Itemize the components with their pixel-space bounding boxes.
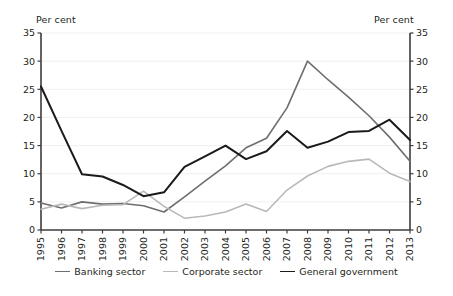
series-lines xyxy=(41,61,410,218)
y-tick-label-right: 5 xyxy=(416,196,422,207)
legend-swatch-icon xyxy=(55,271,70,272)
y-tick-label-right: 20 xyxy=(416,112,428,123)
legend-swatch-icon xyxy=(163,271,178,272)
x-tick-label: 2009 xyxy=(322,237,333,261)
y-tick-label-left: 20 xyxy=(23,112,35,123)
y-tick-label-left: 25 xyxy=(23,84,35,95)
chart-container: Per cent Per cent 05101520253035 0510152… xyxy=(0,0,453,296)
legend-label: General government xyxy=(299,266,397,277)
chart-legend: Banking sectorCorporate sectorGeneral go… xyxy=(0,266,453,277)
x-tick-label: 2003 xyxy=(199,237,210,261)
x-axis: 1995199619971998199920002001200220032004… xyxy=(35,230,415,261)
y-axis-right: 05101520253035 xyxy=(410,27,428,235)
y-tick-label-right: 25 xyxy=(416,84,428,95)
y-tick-label-right: 30 xyxy=(416,56,428,67)
y-tick-label-left: 30 xyxy=(23,56,35,67)
x-tick-label: 2008 xyxy=(302,237,313,261)
x-tick-label: 2013 xyxy=(404,237,415,261)
x-tick-label: 1997 xyxy=(76,237,87,261)
x-tick-label: 1996 xyxy=(56,237,67,261)
x-tick-label: 2001 xyxy=(158,237,169,261)
legend-item-general-government[interactable]: General government xyxy=(280,266,397,277)
y-tick-label-right: 15 xyxy=(416,140,428,151)
x-tick-label: 2012 xyxy=(384,237,395,261)
y-tick-label-left: 35 xyxy=(23,27,35,38)
x-tick-label: 1995 xyxy=(35,237,46,261)
legend-item-banking-sector[interactable]: Banking sector xyxy=(55,266,145,277)
y-tick-label-left: 10 xyxy=(23,168,35,179)
x-tick-label: 2011 xyxy=(363,237,374,261)
series-line-banking-sector xyxy=(41,61,410,212)
y-tick-label-right: 0 xyxy=(416,224,422,235)
line-chart-plot: 05101520253035 05101520253035 1995199619… xyxy=(0,0,453,296)
legend-swatch-icon xyxy=(280,271,295,272)
x-tick-label: 2005 xyxy=(240,237,251,261)
x-tick-label: 2004 xyxy=(220,237,231,261)
legend-label: Corporate sector xyxy=(182,266,262,277)
series-line-corporate-sector xyxy=(41,159,410,218)
y-tick-label-left: 5 xyxy=(29,196,35,207)
y-tick-label-left: 15 xyxy=(23,140,35,151)
x-tick-label: 2002 xyxy=(179,237,190,261)
legend-label: Banking sector xyxy=(74,266,145,277)
x-tick-label: 2010 xyxy=(343,237,354,261)
y-tick-label-right: 10 xyxy=(416,168,428,179)
x-tick-label: 2007 xyxy=(281,237,292,261)
y-tick-label-right: 35 xyxy=(416,27,428,38)
x-tick-label: 1998 xyxy=(97,237,108,261)
y-axis-left: 05101520253035 xyxy=(23,27,41,235)
x-tick-label: 2000 xyxy=(138,237,149,261)
y-tick-label-left: 0 xyxy=(29,224,35,235)
x-tick-label: 1999 xyxy=(117,237,128,261)
x-tick-label: 2006 xyxy=(261,237,272,261)
legend-item-corporate-sector[interactable]: Corporate sector xyxy=(163,266,262,277)
